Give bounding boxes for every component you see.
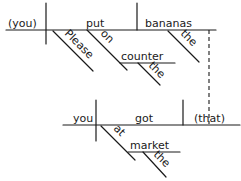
relative-subject: you: [73, 112, 93, 125]
sentence-diagram: (you) put bananas Please on counter the …: [0, 0, 241, 181]
relative-object: (that): [194, 112, 225, 125]
prep-object-market: market: [130, 139, 170, 152]
relative-verb: got: [135, 112, 154, 125]
main-verb: put: [86, 17, 105, 30]
main-subject: (you): [8, 17, 37, 30]
